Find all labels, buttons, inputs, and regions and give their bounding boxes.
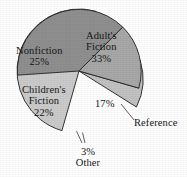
- slice-value-adults-fiction: 33%: [86, 53, 117, 64]
- slice-label-childrens-fiction-line1: Children's: [22, 84, 66, 95]
- other-leader-line-2: [83, 133, 86, 143]
- slice-label-adults-fiction-line1: Adult's: [86, 30, 117, 41]
- slice-label-reference: Reference: [134, 117, 177, 128]
- slice-label-adults-fiction: Adult's Fiction 33%: [86, 30, 117, 64]
- slice-label-nonfiction-line1: Nonfiction: [16, 45, 63, 56]
- slice-label-other: 3% Other: [64, 146, 112, 169]
- slice-label-childrens-fiction: Children's Fiction 22%: [22, 84, 66, 118]
- slice-label-childrens-fiction-line2: Fiction: [22, 95, 66, 106]
- reference-leader-line: [121, 104, 134, 120]
- slice-value-nonfiction: 25%: [16, 56, 63, 67]
- slice-value-other: 3%: [64, 146, 112, 157]
- slice-value-reference: 17%: [95, 98, 115, 109]
- slice-label-adults-fiction-line2: Fiction: [86, 41, 117, 52]
- slice-value-childrens-fiction: 22%: [22, 107, 66, 118]
- slice-label-other-name: Other: [64, 157, 112, 168]
- other-leader-line: [77, 131, 83, 143]
- slice-label-nonfiction: Nonfiction 25%: [16, 45, 63, 68]
- pie-chart: Adult's Fiction 33% Nonfiction 25% Child…: [0, 0, 187, 177]
